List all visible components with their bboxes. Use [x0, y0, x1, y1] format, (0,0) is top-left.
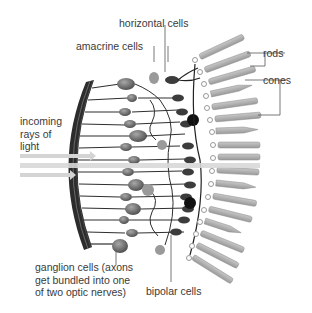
label-horizontal-cells: horizontal cells: [119, 17, 188, 30]
incoming-light-line-1: incoming: [20, 115, 62, 128]
ganglion-cells-line-2: get bundled into one: [35, 274, 133, 287]
label-incoming-light: incoming rays of light: [20, 115, 62, 153]
incoming-light-line-3: light: [20, 140, 62, 153]
label-bipolar-cells: bipolar cells: [146, 285, 201, 298]
label-rods: rods: [263, 47, 283, 60]
ganglion-cells-line-3: of two optic nerves): [35, 286, 133, 299]
label-amacrine-cells: amacrine cells: [76, 40, 143, 53]
incoming-light-line-2: rays of: [20, 128, 62, 141]
ganglion-cells-line-1: ganglion cells (axons: [35, 261, 133, 274]
retina-diagram: horizontal cells amacrine cells rods con…: [0, 0, 312, 313]
label-cones: cones: [263, 74, 291, 87]
label-ganglion-cells: ganglion cells (axons get bundled into o…: [35, 261, 133, 299]
